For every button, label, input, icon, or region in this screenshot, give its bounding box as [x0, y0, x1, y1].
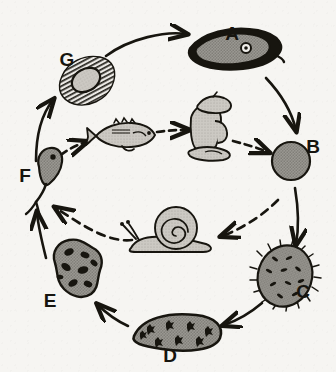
- stage-label-c: C: [296, 281, 310, 302]
- stage-label-d: D: [163, 345, 177, 366]
- stage-label-g: G: [60, 49, 75, 70]
- life-cycle-diagram: A B C: [0, 0, 336, 372]
- stage-label-f: F: [19, 165, 31, 186]
- stage-label-b: B: [306, 136, 320, 157]
- stage-label-e: E: [44, 290, 57, 311]
- stage-label-a: A: [225, 23, 239, 44]
- stage-b-egg: [272, 142, 310, 180]
